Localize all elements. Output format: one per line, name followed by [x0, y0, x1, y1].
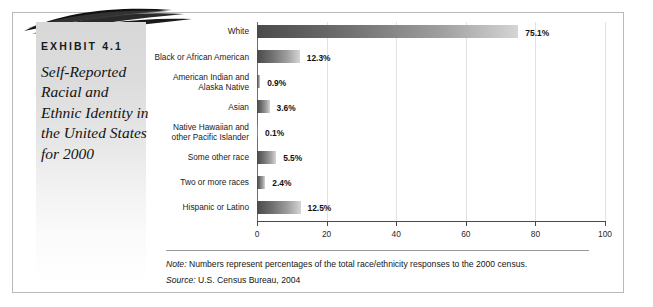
source-prefix: Source: [166, 275, 196, 285]
note-text: Numbers represent percentages of the tot… [187, 259, 528, 269]
note-prefix: Note: [166, 259, 187, 269]
exhibit-title: Self-Reported Racial and Ethnic Identity… [41, 62, 149, 164]
source-text: U.S. Census Bureau, 2004 [196, 275, 301, 285]
footnote-divider [166, 250, 589, 251]
exhibit-label: EXHIBIT 4.1 [41, 40, 123, 52]
note-footnote: Note: Numbers represent percentages of t… [166, 259, 527, 269]
exhibit-figure: EXHIBIT 4.1 Self-Reported Racial and Eth… [0, 0, 653, 307]
source-footnote: Source: U.S. Census Bureau, 2004 [166, 275, 300, 285]
